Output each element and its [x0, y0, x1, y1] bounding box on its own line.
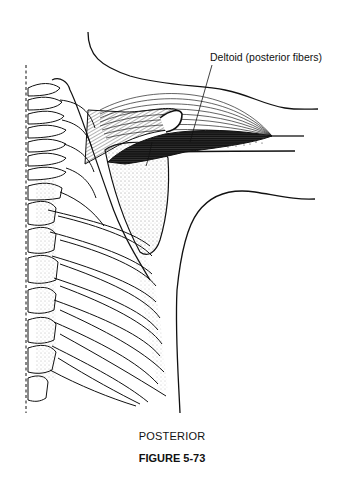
rib-shading — [130, 240, 168, 392]
axilla-trunk-contour — [176, 191, 315, 413]
deltoid-annotation-label: Deltoid (posterior fibers) — [210, 51, 322, 63]
figure-caption: FIGURE 5-73 — [0, 452, 344, 464]
view-label: POSTERIOR — [0, 430, 344, 442]
vertebra-shading — [36, 180, 56, 380]
anatomy-illustration — [0, 0, 344, 487]
